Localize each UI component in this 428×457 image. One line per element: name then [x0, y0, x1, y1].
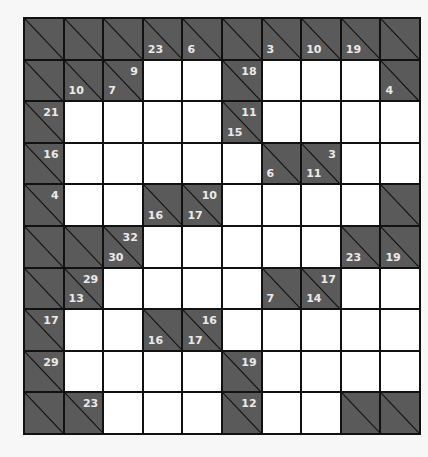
clue-cell-r5-c2: 3230 — [104, 227, 142, 267]
clue-cell-r3-c7: 311 — [302, 144, 340, 184]
clue-cell-r9-c8 — [342, 393, 380, 433]
entry-cell-r2-c8[interactable] — [342, 102, 380, 142]
entry-cell-r5-c6[interactable] — [263, 227, 301, 267]
entry-cell-r6-c8[interactable] — [342, 269, 380, 309]
across-clue: 10 — [202, 189, 217, 202]
entry-cell-r6-c4[interactable] — [183, 269, 221, 309]
entry-cell-r8-c2[interactable] — [104, 352, 142, 392]
kakuro-board: 2363101910971842111151663114161017323023… — [23, 17, 421, 435]
entry-cell-r9-c7[interactable] — [302, 393, 340, 433]
entry-value — [144, 269, 182, 309]
entry-cell-r6-c9[interactable] — [381, 269, 419, 309]
down-clue: 14 — [306, 292, 321, 305]
clue-cell-r4-c4: 1017 — [183, 185, 221, 225]
entry-cell-r4-c6[interactable] — [263, 185, 301, 225]
entry-cell-r3-c9[interactable] — [381, 144, 419, 184]
clue-cell-r3-c6: 6 — [263, 144, 301, 184]
entry-cell-r9-c6[interactable] — [263, 393, 301, 433]
entry-cell-r7-c7[interactable] — [302, 310, 340, 350]
clue-cell-r9-c9 — [381, 393, 419, 433]
entry-cell-r3-c1[interactable] — [65, 144, 103, 184]
entry-cell-r8-c3[interactable] — [144, 352, 182, 392]
clue-cell-r6-c7: 1714 — [302, 269, 340, 309]
entry-cell-r8-c1[interactable] — [65, 352, 103, 392]
entry-value — [302, 310, 340, 350]
entry-value — [65, 185, 103, 225]
entry-cell-r6-c2[interactable] — [104, 269, 142, 309]
entry-cell-r3-c2[interactable] — [104, 144, 142, 184]
entry-value — [302, 393, 340, 433]
across-clue: 19 — [241, 356, 256, 369]
entry-cell-r8-c9[interactable] — [381, 352, 419, 392]
entry-cell-r8-c6[interactable] — [263, 352, 301, 392]
entry-cell-r6-c5[interactable] — [223, 269, 261, 309]
entry-cell-r3-c5[interactable] — [223, 144, 261, 184]
across-clue: 29 — [83, 273, 98, 286]
entry-cell-r2-c4[interactable] — [183, 102, 221, 142]
clue-cell-r0-c2 — [104, 19, 142, 59]
entry-cell-r5-c3[interactable] — [144, 227, 182, 267]
clue-cell-r4-c9 — [381, 185, 419, 225]
entry-cell-r9-c3[interactable] — [144, 393, 182, 433]
entry-cell-r4-c2[interactable] — [104, 185, 142, 225]
entry-value — [183, 269, 221, 309]
entry-cell-r1-c8[interactable] — [342, 61, 380, 101]
down-clue: 30 — [108, 251, 123, 264]
entry-cell-r1-c6[interactable] — [263, 61, 301, 101]
entry-cell-r7-c5[interactable] — [223, 310, 261, 350]
entry-cell-r7-c6[interactable] — [263, 310, 301, 350]
entry-cell-r3-c3[interactable] — [144, 144, 182, 184]
entry-cell-r2-c1[interactable] — [65, 102, 103, 142]
entry-cell-r7-c2[interactable] — [104, 310, 142, 350]
entry-cell-r6-c3[interactable] — [144, 269, 182, 309]
entry-cell-r9-c4[interactable] — [183, 393, 221, 433]
entry-cell-r3-c4[interactable] — [183, 144, 221, 184]
entry-cell-r5-c5[interactable] — [223, 227, 261, 267]
entry-cell-r3-c8[interactable] — [342, 144, 380, 184]
entry-cell-r7-c8[interactable] — [342, 310, 380, 350]
clue-cell-r9-c1: 23 — [65, 393, 103, 433]
entry-cell-r4-c1[interactable] — [65, 185, 103, 225]
entry-cell-r4-c8[interactable] — [342, 185, 380, 225]
entry-cell-r7-c9[interactable] — [381, 310, 419, 350]
entry-cell-r9-c2[interactable] — [104, 393, 142, 433]
entry-value — [342, 269, 380, 309]
clue-cell-r1-c2: 97 — [104, 61, 142, 101]
entry-value — [342, 310, 380, 350]
entry-cell-r5-c4[interactable] — [183, 227, 221, 267]
entry-value — [263, 352, 301, 392]
across-clue: 32 — [122, 231, 137, 244]
entry-cell-r1-c3[interactable] — [144, 61, 182, 101]
entry-cell-r2-c9[interactable] — [381, 102, 419, 142]
diagonal-divider-icon — [25, 269, 63, 309]
entry-cell-r1-c4[interactable] — [183, 61, 221, 101]
entry-value — [104, 102, 142, 142]
entry-cell-r2-c6[interactable] — [263, 102, 301, 142]
clue-cell-r7-c4: 1617 — [183, 310, 221, 350]
down-clue: 15 — [227, 126, 242, 139]
entry-cell-r8-c8[interactable] — [342, 352, 380, 392]
across-clue: 16 — [202, 314, 217, 327]
entry-value — [65, 352, 103, 392]
entry-value — [104, 185, 142, 225]
entry-cell-r2-c2[interactable] — [104, 102, 142, 142]
clue-cell-r1-c0 — [25, 61, 63, 101]
entry-value — [302, 102, 340, 142]
entry-cell-r8-c4[interactable] — [183, 352, 221, 392]
entry-cell-r1-c7[interactable] — [302, 61, 340, 101]
entry-cell-r5-c7[interactable] — [302, 227, 340, 267]
clue-cell-r5-c9: 19 — [381, 227, 419, 267]
entry-cell-r2-c7[interactable] — [302, 102, 340, 142]
entry-cell-r4-c5[interactable] — [223, 185, 261, 225]
clue-cell-r6-c0 — [25, 269, 63, 309]
entry-value — [65, 144, 103, 184]
entry-value — [302, 227, 340, 267]
entry-cell-r7-c1[interactable] — [65, 310, 103, 350]
entry-cell-r4-c7[interactable] — [302, 185, 340, 225]
entry-cell-r2-c3[interactable] — [144, 102, 182, 142]
entry-cell-r8-c7[interactable] — [302, 352, 340, 392]
clue-cell-r7-c0: 17 — [25, 310, 63, 350]
entry-value — [263, 185, 301, 225]
diagonal-divider-icon — [381, 19, 419, 59]
clue-cell-r0-c4: 6 — [183, 19, 221, 59]
